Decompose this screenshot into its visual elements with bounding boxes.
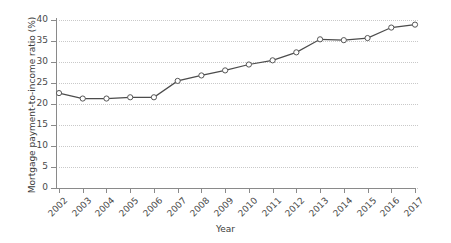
data-point-marker: [104, 96, 109, 101]
series-markers: [56, 22, 417, 101]
data-point-marker: [389, 25, 394, 30]
data-point-marker: [341, 38, 346, 43]
data-point-marker: [223, 68, 228, 73]
series-line: [59, 25, 415, 99]
data-point-marker: [246, 62, 251, 67]
data-point-marker: [175, 78, 180, 83]
data-point-marker: [270, 58, 275, 63]
data-point-marker: [317, 37, 322, 42]
chart-figure: 0510152025303540 20022003200420052006200…: [0, 0, 451, 243]
data-point-marker: [365, 35, 370, 40]
series-plot: [0, 0, 451, 243]
data-point-marker: [412, 22, 417, 27]
data-point-marker: [294, 50, 299, 55]
data-point-marker: [80, 96, 85, 101]
data-point-marker: [199, 73, 204, 78]
data-point-marker: [151, 95, 156, 100]
data-point-marker: [128, 95, 133, 100]
data-point-marker: [56, 90, 61, 95]
